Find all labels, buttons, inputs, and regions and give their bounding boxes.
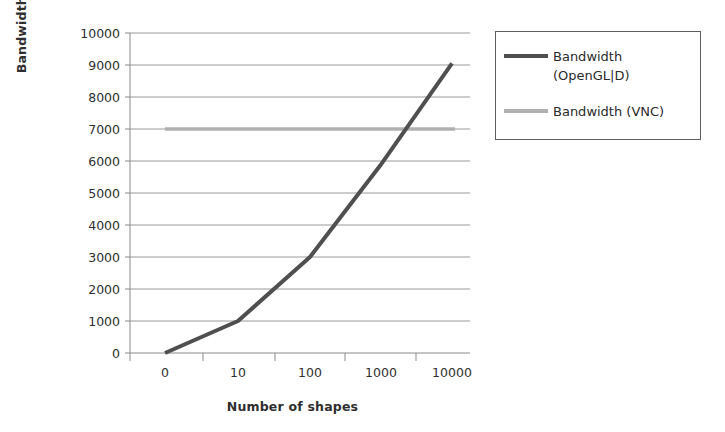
legend-item-vnc: Bandwidth (VNC) xyxy=(504,102,664,121)
x-tick-10: 10 xyxy=(230,365,246,380)
legend-item-opengl: Bandwidth (OpenGL|D) xyxy=(504,47,630,85)
legend-swatch-vnc xyxy=(504,109,548,113)
legend-swatch-opengl xyxy=(504,54,548,58)
legend-label-vnc: Bandwidth (VNC) xyxy=(553,102,664,121)
x-tick-0: 0 xyxy=(161,365,169,380)
x-tick-10000: 10000 xyxy=(432,365,472,380)
chart-legend: Bandwidth (OpenGL|D) Bandwidth (VNC) xyxy=(495,31,701,140)
x-axis-title: Number of shapes xyxy=(130,399,455,414)
bandwidth-line-chart: Bandwidth (Bytes/s) 10000 9000 8000 7000… xyxy=(0,0,725,432)
legend-label-opengl: Bandwidth (OpenGL|D) xyxy=(553,47,630,85)
x-tick-100: 100 xyxy=(298,365,322,380)
x-tick-1000: 1000 xyxy=(365,365,397,380)
